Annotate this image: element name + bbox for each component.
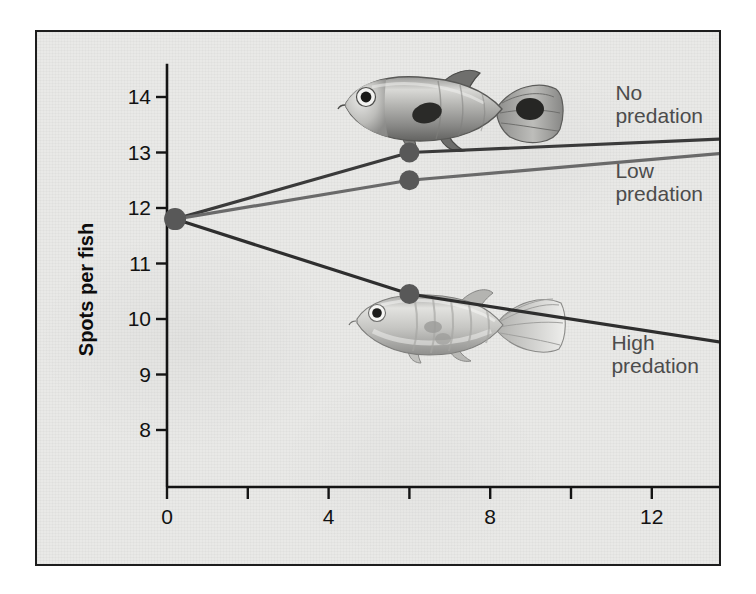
series-annotation: Low predation xyxy=(615,160,703,205)
data-point-marker xyxy=(399,143,419,163)
series-line-2 xyxy=(175,219,721,344)
data-point-marker xyxy=(399,170,419,190)
chart-panel: Spots per fish Months 891011121314 04812 xyxy=(35,30,721,566)
data-point-marker xyxy=(399,284,419,304)
screenshot-root: { "chart_data": { "type": "line", "title… xyxy=(0,0,756,594)
series-annotation: High predation xyxy=(611,332,699,377)
data-point-marker xyxy=(164,208,186,230)
series-annotation: No predation xyxy=(615,82,703,127)
